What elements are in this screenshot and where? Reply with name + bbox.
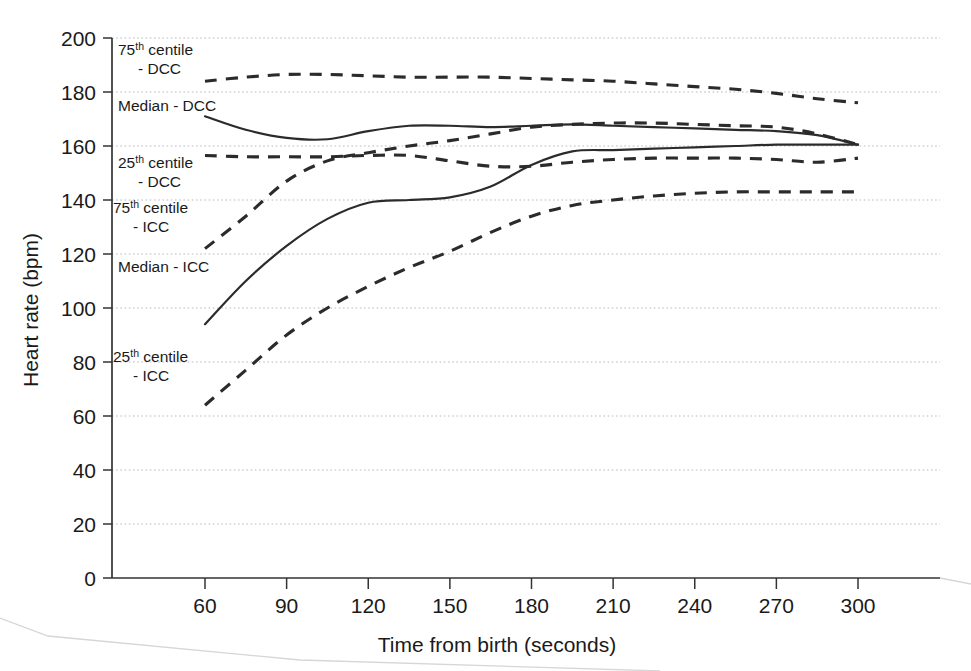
y-tick-label: 40 (73, 459, 96, 482)
lbl-median-dcc: Median - DCC (118, 97, 216, 114)
x-tick-label: 210 (596, 594, 631, 617)
x-tick-label: 270 (759, 594, 794, 617)
x-axis-title: Time from birth (seconds) (378, 633, 616, 656)
y-tick-label: 100 (61, 297, 96, 320)
y-tick-label: 180 (61, 81, 96, 104)
x-tick-label: 180 (514, 594, 549, 617)
y-axis-title: Heart rate (bpm) (19, 233, 42, 387)
y-tick-label: 60 (73, 405, 96, 428)
x-tick-label: 90 (275, 594, 298, 617)
x-tick-label: 150 (432, 594, 467, 617)
y-tick-label: 80 (73, 351, 96, 374)
x-tick-label: 60 (193, 594, 216, 617)
y-tick-label: 200 (61, 27, 96, 50)
lbl-median-icc: Median - ICC (118, 258, 209, 275)
y-tick-label: 120 (61, 243, 96, 266)
chart-figure: 020406080100120140160180200 609012015018… (0, 0, 971, 671)
y-tick-label: 160 (61, 135, 96, 158)
x-tick-label: 120 (351, 594, 386, 617)
y-tick-label: 0 (84, 567, 96, 590)
x-tick-label: 240 (677, 594, 712, 617)
x-tick-label: 300 (840, 594, 875, 617)
y-tick-label: 20 (73, 513, 96, 536)
heart-rate-line-chart: 020406080100120140160180200 609012015018… (0, 0, 971, 671)
y-tick-label: 140 (61, 189, 96, 212)
